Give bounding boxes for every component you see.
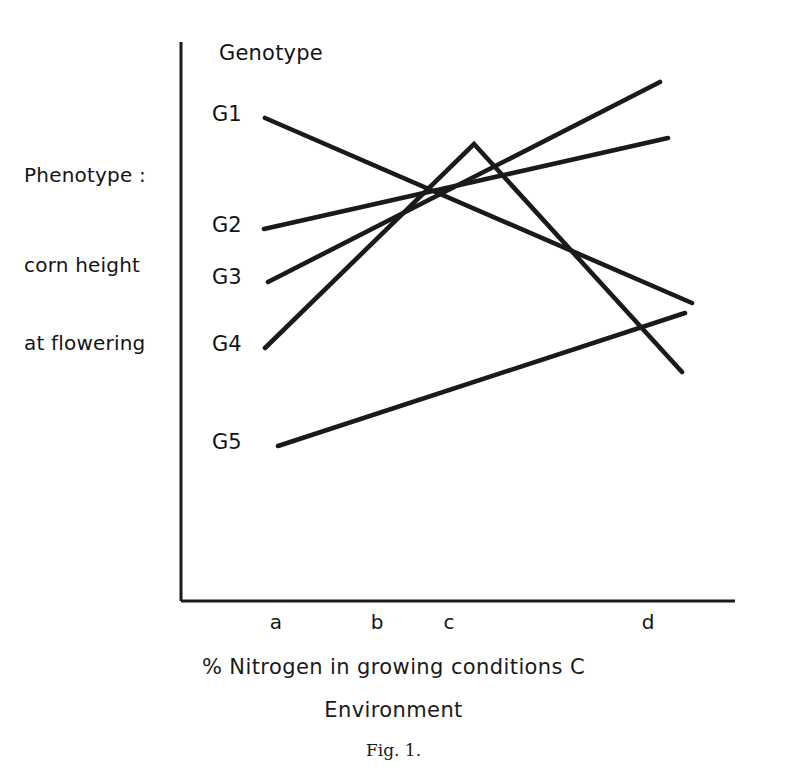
x-axis-caption-line-1: % Nitrogen in growing conditions C — [0, 655, 787, 679]
genotype-label-g5: G5 — [212, 430, 242, 454]
x-tick-label-a: a — [261, 610, 291, 634]
y-axis-title-line-1: Phenotype : — [24, 163, 174, 189]
y-axis-title-line-3: at flowering — [24, 331, 174, 357]
genotype-label-g1: G1 — [212, 102, 242, 126]
genotype-label-g4: G4 — [212, 332, 242, 356]
series-line-g5 — [278, 313, 685, 446]
figure-number-caption: Fig. 1. — [0, 740, 787, 760]
y-axis-title-line-2: corn height — [24, 253, 174, 279]
series-line-g3 — [268, 82, 660, 282]
series-group — [264, 82, 692, 446]
x-tick-label-b: b — [362, 610, 392, 634]
x-tick-label-c: c — [434, 610, 464, 634]
x-axis-caption-line-2: Environment — [0, 698, 787, 722]
legend-title: Genotype — [219, 40, 323, 67]
x-tick-label-d: d — [633, 610, 663, 634]
genotype-label-g3: G3 — [212, 265, 242, 289]
figure-container: Phenotype : corn height at flowering Gen… — [0, 0, 787, 780]
y-axis-title: Phenotype : corn height at flowering — [24, 112, 174, 408]
genotype-label-g2: G2 — [212, 213, 242, 237]
